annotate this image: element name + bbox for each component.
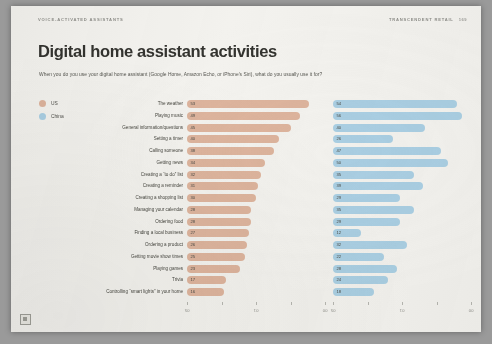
bar-china[interactable]: 26 xyxy=(333,135,393,143)
chart-row: Managing your calendar2835 xyxy=(38,206,470,214)
bar-us[interactable]: 27 xyxy=(187,229,249,237)
axis-tick xyxy=(291,302,292,305)
category-label: Ordering food xyxy=(38,218,183,226)
bar-panel-china: 32 xyxy=(333,241,471,249)
bar-panel-us: 25 xyxy=(187,253,325,261)
category-label: Creating a reminder xyxy=(38,182,183,190)
bar-us[interactable]: 16 xyxy=(187,288,224,296)
bar-value-label: 27 xyxy=(190,229,195,237)
bar-us[interactable]: 32 xyxy=(187,171,261,179)
bar-us[interactable]: 17 xyxy=(187,276,226,284)
chart-row: Calling someone3847 xyxy=(38,147,470,155)
bar-china[interactable]: 28 xyxy=(333,265,397,273)
x-axis-china: 050100 xyxy=(333,302,471,320)
bar-us[interactable]: 45 xyxy=(187,124,291,132)
chart-row: Ordering food2829 xyxy=(38,218,470,226)
bar-china[interactable]: 29 xyxy=(333,194,400,202)
bar-us[interactable]: 40 xyxy=(187,135,279,143)
axis-tick xyxy=(437,302,438,305)
bar-us[interactable]: 26 xyxy=(187,241,247,249)
bar-value-label: 39 xyxy=(336,182,341,190)
bar-panel-china: 40 xyxy=(333,124,471,132)
bar-value-label: 31 xyxy=(190,182,195,190)
bar-value-label: 35 xyxy=(336,206,341,214)
bar-value-label: 53 xyxy=(190,100,195,108)
bar-china[interactable]: 35 xyxy=(333,171,414,179)
bar-us[interactable]: 25 xyxy=(187,253,245,261)
bar-panel-china: 26 xyxy=(333,135,471,143)
bar-panel-us: 38 xyxy=(187,147,325,155)
bar-china[interactable]: 22 xyxy=(333,253,384,261)
bar-china[interactable]: 50 xyxy=(333,159,448,167)
category-label: Playing music xyxy=(38,112,183,120)
brand-label: TRANSCENDENT RETAIL xyxy=(389,17,454,22)
slide-header-right: TRANSCENDENT RETAIL 169 xyxy=(389,17,467,22)
bar-panel-china: 18 xyxy=(333,288,471,296)
bar-value-label: 32 xyxy=(336,241,341,249)
bar-china[interactable]: 12 xyxy=(333,229,361,237)
bar-us[interactable]: 30 xyxy=(187,194,256,202)
chart-row: Playing music4956 xyxy=(38,112,470,120)
bar-value-label: 26 xyxy=(336,135,341,143)
bar-value-label: 29 xyxy=(336,218,341,226)
bar-china[interactable]: 40 xyxy=(333,124,425,132)
bar-china[interactable]: 56 xyxy=(333,112,462,120)
page-corner-mark-icon xyxy=(20,314,31,325)
bar-us[interactable]: 23 xyxy=(187,265,240,273)
bar-value-label: 25 xyxy=(190,253,195,261)
category-label: Managing your calendar xyxy=(38,206,183,214)
bar-us[interactable]: 28 xyxy=(187,218,251,226)
page-subtitle: When you do you use your digital home as… xyxy=(39,72,322,77)
bar-panel-china: 29 xyxy=(333,194,471,202)
bar-us[interactable]: 34 xyxy=(187,159,265,167)
chart-row: Controlling “smart lights” in your home1… xyxy=(38,288,470,296)
bar-panel-china: 29 xyxy=(333,218,471,226)
axis-tick xyxy=(471,302,472,305)
bar-china[interactable]: 39 xyxy=(333,182,423,190)
category-label: Calling someone xyxy=(38,147,183,155)
bar-value-label: 50 xyxy=(336,159,341,167)
bar-value-label: 56 xyxy=(336,112,341,120)
bar-china[interactable]: 47 xyxy=(333,147,441,155)
bar-china[interactable]: 18 xyxy=(333,288,374,296)
axis-tick-label: 00 xyxy=(469,308,474,313)
axis-tick xyxy=(325,302,326,305)
bar-us[interactable]: 28 xyxy=(187,206,251,214)
axis-tick xyxy=(333,302,334,305)
category-label: Trivia xyxy=(38,276,183,284)
bar-china[interactable]: 32 xyxy=(333,241,407,249)
chart-row: Creating a “to do” list3235 xyxy=(38,171,470,179)
category-label: Getting movie show times xyxy=(38,253,183,261)
x-axis-us: 050100 xyxy=(187,302,325,320)
bar-panel-us: 17 xyxy=(187,276,325,284)
bar-us[interactable]: 31 xyxy=(187,182,258,190)
bar-panel-china: 12 xyxy=(333,229,471,237)
bar-panel-china: 35 xyxy=(333,206,471,214)
bar-us[interactable]: 49 xyxy=(187,112,300,120)
bar-panel-us: 49 xyxy=(187,112,325,120)
page-title: Digital home assistant activities xyxy=(38,42,277,61)
bar-value-label: 16 xyxy=(190,288,195,296)
bar-us[interactable]: 53 xyxy=(187,100,309,108)
bar-value-label: 28 xyxy=(190,206,195,214)
bar-value-label: 32 xyxy=(190,171,195,179)
bar-china[interactable]: 24 xyxy=(333,276,388,284)
bar-value-label: 28 xyxy=(336,265,341,273)
bar-value-label: 12 xyxy=(336,229,341,237)
category-label: Finding a local business xyxy=(38,229,183,237)
axis-tick xyxy=(187,302,188,305)
bar-china[interactable]: 54 xyxy=(333,100,457,108)
bar-value-label: 28 xyxy=(190,218,195,226)
bar-china[interactable]: 35 xyxy=(333,206,414,214)
chart-row: Getting news3450 xyxy=(38,159,470,167)
axis-tick xyxy=(402,302,403,305)
bar-panel-china: 35 xyxy=(333,171,471,179)
bar-panel-us: 53 xyxy=(187,100,325,108)
chart-plot-area: The weather5354Playing music4956General … xyxy=(38,100,470,300)
bar-panel-us: 30 xyxy=(187,194,325,202)
bar-us[interactable]: 38 xyxy=(187,147,274,155)
bar-china[interactable]: 29 xyxy=(333,218,400,226)
category-label: Controlling “smart lights” in your home xyxy=(38,288,183,296)
bar-panel-us: 40 xyxy=(187,135,325,143)
axis-tick-label: 01 xyxy=(400,308,405,313)
